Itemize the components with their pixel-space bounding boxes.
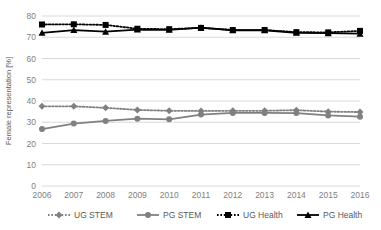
y-tick-label: 10 xyxy=(27,160,37,170)
circle-marker xyxy=(262,110,268,116)
y-tick-label: 40 xyxy=(27,96,37,106)
circle-marker xyxy=(71,121,77,127)
diamond-marker xyxy=(166,107,173,114)
chart-legend: UG STEMPG STEMUG HealthPG Health xyxy=(48,210,362,220)
square-marker xyxy=(39,22,45,28)
y-axis-label: Female representation [%] xyxy=(4,57,13,145)
diamond-marker xyxy=(102,104,109,111)
legend-item-pg-health[interactable]: PG Health xyxy=(297,210,362,220)
circle-marker xyxy=(103,118,109,124)
x-tick-label: 2013 xyxy=(255,190,274,200)
legend-label: PG Health xyxy=(323,210,362,220)
y-axis-tick-labels: 01020304050607080 xyxy=(27,11,37,191)
x-tick-label: 2008 xyxy=(96,190,115,200)
y-tick-label: 20 xyxy=(27,139,37,149)
circle-marker xyxy=(325,112,331,118)
square-marker xyxy=(71,21,77,27)
legend-item-ug-health[interactable]: UG Health xyxy=(217,210,283,220)
y-tick-label: 60 xyxy=(27,54,37,64)
legend-label: UG Health xyxy=(243,210,283,220)
y-tick-label: 30 xyxy=(27,117,37,127)
gridlines xyxy=(42,16,360,186)
square-marker xyxy=(103,22,109,28)
female-representation-line-chart: 01020304050607080 2006200720082009201020… xyxy=(0,0,381,230)
series-pg-health xyxy=(39,24,364,36)
diamond-marker xyxy=(134,106,141,113)
circle-marker xyxy=(230,110,236,116)
x-tick-label: 2006 xyxy=(33,190,52,200)
legend-label: UG STEM xyxy=(74,210,113,220)
square-marker xyxy=(225,212,231,218)
legend-label: PG STEM xyxy=(163,210,201,220)
diamond-marker xyxy=(70,103,77,110)
data-series xyxy=(39,21,364,132)
y-tick-label: 80 xyxy=(27,11,37,21)
diamond-marker xyxy=(39,103,46,110)
circle-marker xyxy=(166,116,172,122)
series-pg-stem xyxy=(39,110,363,132)
y-axis-title: Female representation [%] xyxy=(4,57,13,145)
x-axis-tick-labels: 2006200720082009201020112012201320142015… xyxy=(33,190,370,200)
y-tick-label: 70 xyxy=(27,32,37,42)
x-tick-label: 2012 xyxy=(223,190,242,200)
x-tick-label: 2011 xyxy=(192,190,211,200)
x-tick-label: 2015 xyxy=(319,190,338,200)
circle-marker xyxy=(293,110,299,116)
x-tick-label: 2009 xyxy=(128,190,147,200)
circle-marker xyxy=(145,212,151,218)
diamond-marker xyxy=(56,212,63,219)
legend-item-pg-stem[interactable]: PG STEM xyxy=(137,210,201,220)
x-tick-label: 2007 xyxy=(64,190,83,200)
circle-marker xyxy=(134,116,140,122)
legend-item-ug-stem[interactable]: UG STEM xyxy=(48,210,113,220)
circle-marker xyxy=(198,112,204,118)
circle-marker xyxy=(39,126,45,132)
x-tick-label: 2016 xyxy=(351,190,370,200)
y-tick-label: 50 xyxy=(27,75,37,85)
x-tick-label: 2014 xyxy=(287,190,306,200)
chart-container: 01020304050607080 2006200720082009201020… xyxy=(0,0,381,230)
circle-marker xyxy=(357,114,363,120)
x-tick-label: 2010 xyxy=(160,190,179,200)
